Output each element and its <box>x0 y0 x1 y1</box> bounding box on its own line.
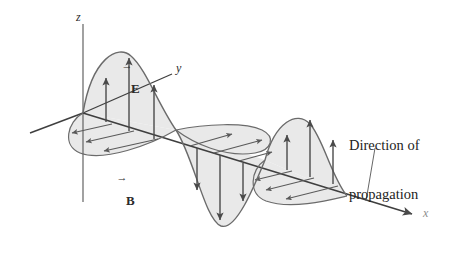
propagation-annotation-line2: propagation <box>349 186 419 202</box>
propagation-annotation: Direction of propagation <box>349 105 419 235</box>
x-axis-label: x <box>423 207 428 220</box>
z-axis-label: z <box>76 11 81 24</box>
b-field-label: → B <box>113 146 131 223</box>
em-wave-figure: z y x → E → B Direction of propagation <box>0 0 456 257</box>
e-vector-accent: → <box>118 63 136 68</box>
wave-lobe-fills <box>69 52 347 226</box>
b-vector-symbol: B <box>126 193 135 208</box>
e-field-label: → E <box>118 34 136 111</box>
e-vector-symbol: E <box>131 81 140 96</box>
b-vector-accent: → <box>113 175 131 180</box>
y-axis-label: y <box>176 62 181 75</box>
propagation-annotation-line1: Direction of <box>349 137 419 153</box>
